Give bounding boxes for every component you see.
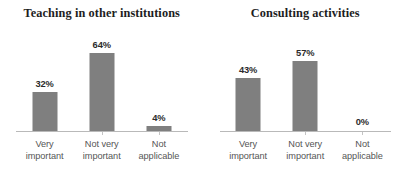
bar-value-label: 4% [152, 113, 165, 123]
x-axis-line [220, 131, 392, 132]
axis-tick [362, 132, 363, 135]
category-label-line: Not very [277, 138, 334, 150]
bar-value-label: 43% [239, 65, 257, 75]
category-label-line: important [277, 150, 334, 162]
bar-slot: 57% [277, 34, 334, 131]
category-label: Very important [220, 138, 277, 162]
bar-slot: 43% [220, 34, 277, 131]
chart-title: Teaching in other institutions [0, 6, 204, 21]
bar-slot: 0% [334, 34, 391, 131]
bar [89, 53, 114, 131]
axis-tick [159, 132, 160, 135]
category-label: Not applicable [130, 138, 187, 162]
bar [293, 61, 318, 131]
chart-panel-teaching: Teaching in other institutions 32% 64% 4… [0, 0, 204, 177]
plot-area: 32% 64% 4% [16, 34, 188, 132]
category-label: Not very important [277, 138, 334, 162]
bar-slot: 4% [130, 34, 187, 131]
chart-panel-consulting: Consulting activities 43% 57% 0% [204, 0, 407, 177]
bar [236, 78, 261, 131]
bar-value-label: 0% [356, 117, 369, 127]
category-label-line: applicable [334, 150, 391, 162]
x-axis-line [16, 131, 188, 132]
category-label-line: Very [220, 138, 277, 150]
chart-title: Consulting activities [204, 6, 407, 21]
axis-tick [305, 132, 306, 135]
bar-slot: 32% [16, 34, 73, 131]
category-label-line: important [73, 150, 130, 162]
category-label-line: important [16, 150, 73, 162]
category-label-line: applicable [130, 150, 187, 162]
bar-chart-figure: Teaching in other institutions 32% 64% 4… [0, 0, 407, 177]
bar-group: 32% 64% 4% [16, 34, 188, 131]
category-axis-labels: Very important Not very important Not ap… [220, 138, 392, 162]
category-label: Not applicable [334, 138, 391, 162]
bar-value-label: 57% [296, 48, 314, 58]
bar-value-label: 32% [35, 79, 53, 89]
axis-tick [102, 132, 103, 135]
category-label-line: Not very [73, 138, 130, 150]
category-axis-labels: Very important Not very important Not ap… [16, 138, 188, 162]
bar-value-label: 64% [93, 40, 111, 50]
category-label-line: important [220, 150, 277, 162]
category-label-line: Very [16, 138, 73, 150]
category-label: Not very important [73, 138, 130, 162]
category-label-line: Not [130, 138, 187, 150]
category-label-line: Not [334, 138, 391, 150]
bar-slot: 64% [73, 34, 130, 131]
bar [32, 92, 57, 131]
bar-group: 43% 57% 0% [220, 34, 392, 131]
category-label: Very important [16, 138, 73, 162]
plot-area: 43% 57% 0% [220, 34, 392, 132]
